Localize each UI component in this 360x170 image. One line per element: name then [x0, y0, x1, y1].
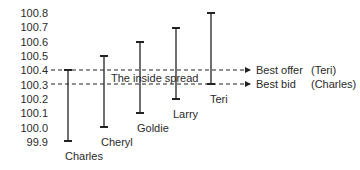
range-bar-larry — [172, 28, 180, 99]
best-bid-who: (Charles) — [311, 78, 356, 90]
best-offer-who: (Teri) — [311, 64, 336, 76]
trader-quote-range-chart: 100.8 100.7 100.6 100.5 100.4 100.3 100.… — [0, 0, 360, 170]
trader-label-teri: Teri — [210, 93, 228, 105]
trader-label-larry: Larry — [173, 108, 198, 120]
plot-area — [0, 0, 360, 170]
range-bar-cheryl — [100, 56, 108, 127]
best-offer-label: Best offer — [256, 64, 303, 76]
trader-label-cheryl: Cheryl — [101, 136, 133, 148]
trader-label-goldie: Goldie — [137, 122, 169, 134]
range-bar-charles — [64, 70, 72, 141]
trader-label-charles: Charles — [65, 150, 103, 162]
range-bar-teri — [207, 13, 215, 84]
inside-spread-label: The inside spread — [111, 72, 198, 84]
best-bid-label: Best bid — [256, 78, 296, 90]
